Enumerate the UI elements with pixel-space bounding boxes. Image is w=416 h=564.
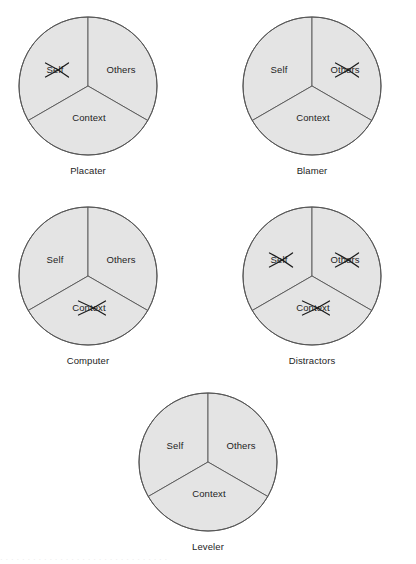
sector-label-context: Context: [192, 488, 225, 499]
page-bleed-artifact: · · · · · · · · · · · · · · · · · · · · …: [0, 555, 416, 564]
sector-label-self: Self: [271, 64, 288, 75]
unit-caption: Blamer: [238, 165, 386, 176]
stance-circle: SelfOthersContext: [238, 202, 386, 350]
sector-label-context: Context: [72, 112, 105, 123]
circle-svg: [238, 202, 386, 350]
stance-diagram-figure: SelfOthersContextPlacater SelfOthersCont…: [0, 0, 416, 564]
sector-label-others: Others: [106, 254, 135, 265]
diagram-unit-leveler: SelfOthersContextLeveler: [134, 388, 282, 556]
sector-label-context: Context: [296, 112, 329, 123]
circle-svg: [14, 202, 162, 350]
sector-label-others: Others: [106, 64, 135, 75]
unit-caption: Computer: [14, 355, 162, 366]
sector-label-others: Others: [330, 64, 359, 75]
stance-circle: SelfOthersContext: [134, 388, 282, 536]
diagram-unit-distractors: SelfOthersContextDistractors: [238, 202, 386, 370]
sector-label-self: Self: [47, 64, 64, 75]
sector-label-self: Self: [167, 440, 184, 451]
circle-svg: [134, 388, 282, 536]
unit-caption: Leveler: [134, 541, 282, 552]
diagram-unit-blamer: SelfOthersContextBlamer: [238, 12, 386, 180]
sector-label-others: Others: [330, 254, 359, 265]
unit-caption: Distractors: [238, 355, 386, 366]
diagram-unit-placater: SelfOthersContextPlacater: [14, 12, 162, 180]
diagram-unit-computer: SelfOthersContextComputer: [14, 202, 162, 370]
stance-circle: SelfOthersContext: [14, 12, 162, 160]
sector-label-context: Context: [72, 302, 105, 313]
stance-circle: SelfOthersContext: [238, 12, 386, 160]
unit-caption: Placater: [14, 165, 162, 176]
sector-label-context: Context: [296, 302, 329, 313]
stance-circle: SelfOthersContext: [14, 202, 162, 350]
sector-label-self: Self: [47, 254, 64, 265]
sector-label-others: Others: [226, 440, 255, 451]
circle-svg: [14, 12, 162, 160]
circle-svg: [238, 12, 386, 160]
sector-label-self: Self: [271, 254, 288, 265]
